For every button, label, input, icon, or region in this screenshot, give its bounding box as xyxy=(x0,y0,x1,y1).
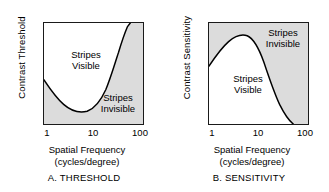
x-tick-1-sensitivity: 1 xyxy=(198,128,226,138)
x-axis-label-sensitivity: Spatial Frequency (cycles/degree) xyxy=(177,144,327,167)
panel-threshold: Contrast Threshold high low Stripes Visi… xyxy=(0,0,164,192)
region-label-stripes-invisible-b: Stripes Invisible xyxy=(259,27,307,49)
region-label-line2: Invisible xyxy=(259,38,307,49)
plot-area-threshold: high low Stripes Visible Stripes Invisib… xyxy=(43,22,144,125)
contrast-sensitivity-figure: Contrast Threshold high low Stripes Visi… xyxy=(0,0,329,192)
x-tick-10-sensitivity: 10 xyxy=(244,128,272,138)
x-axis-label-text: Spatial Frequency xyxy=(214,144,291,155)
region-label-stripes-invisible-a: Stripes Invisible xyxy=(94,92,142,114)
panel-sensitivity: Contrast Sensitivity high low Stripes In… xyxy=(165,0,329,192)
x-tick-10-threshold: 10 xyxy=(79,128,107,138)
region-label-line2: Visible xyxy=(63,60,109,71)
region-label-line1: Stripes xyxy=(94,92,142,103)
x-axis-units-text: (cycles/degree) xyxy=(177,156,327,168)
y-axis-label-sensitivity: Contrast Sensitivity xyxy=(181,0,192,120)
region-label-stripes-visible-a: Stripes Visible xyxy=(63,49,109,71)
x-axis-label-threshold: Spatial Frequency (cycles/degree) xyxy=(12,144,162,167)
panel-caption-threshold: A. THRESHOLD xyxy=(6,172,162,183)
y-axis-label-threshold: Contrast Threshold xyxy=(16,0,27,120)
panel-caption-sensitivity: B. SENSITIVITY xyxy=(171,172,327,183)
x-axis-units-text: (cycles/degree) xyxy=(12,156,162,168)
region-label-line2: Visible xyxy=(225,84,271,95)
plot-area-sensitivity: high low Stripes Invisible Stripes Visib… xyxy=(208,22,309,125)
x-tick-1-threshold: 1 xyxy=(33,128,61,138)
x-tick-100-sensitivity: 100 xyxy=(290,128,320,138)
region-label-line1: Stripes xyxy=(63,49,109,60)
x-tick-100-threshold: 100 xyxy=(125,128,155,138)
x-axis-label-text: Spatial Frequency xyxy=(49,144,126,155)
region-label-line2: Invisible xyxy=(94,103,142,114)
region-label-stripes-visible-b: Stripes Visible xyxy=(225,73,271,95)
region-label-line1: Stripes xyxy=(259,27,307,38)
region-label-line1: Stripes xyxy=(225,73,271,84)
